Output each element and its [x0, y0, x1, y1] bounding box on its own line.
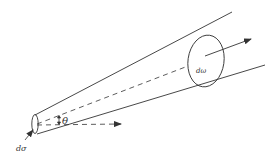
diagram-canvas: θ dσ dω — [0, 0, 278, 166]
theta-label: θ — [62, 115, 68, 126]
cone-lower-edge — [37, 65, 265, 134]
solid-angle-ellipse — [185, 33, 228, 90]
solid-angle-label: dω — [196, 67, 206, 75]
reference-direction-arrow — [37, 124, 121, 125]
source-area-label: dσ — [16, 144, 27, 153]
cone-upper-edge — [35, 12, 232, 115]
outgoing-direction-arrow — [205, 39, 251, 56]
theta-angle-marker — [58, 116, 61, 125]
source-area-pointer-arrow — [25, 130, 33, 140]
